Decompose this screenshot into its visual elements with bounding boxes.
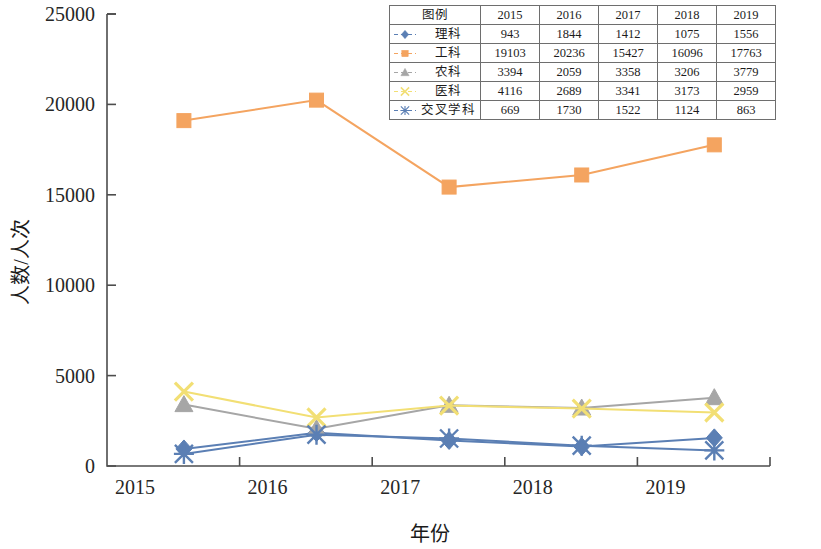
- data-point-star: [572, 436, 592, 456]
- data-point-star: [439, 428, 459, 448]
- y-tick-label-20000: 20000: [45, 93, 95, 115]
- x-tick-label-2015: 2015: [115, 476, 155, 498]
- legend-value-cell: 669: [481, 101, 540, 120]
- legend-value-cell: 3779: [717, 63, 776, 82]
- legend-series-name: 医科: [420, 83, 477, 99]
- series-4: [175, 383, 723, 427]
- legend-header-row: 图例 2015 2016 2017 2018 2019: [390, 6, 776, 25]
- legend-value-cell: 863: [717, 101, 776, 120]
- data-point-triangle: [705, 389, 723, 405]
- legend-header-year-2017: 2017: [599, 6, 658, 25]
- x-axis-title: 年份: [410, 523, 450, 545]
- data-point-square: [442, 180, 456, 194]
- series-layer: [174, 93, 724, 464]
- legend-header-year-2015: 2015: [481, 6, 540, 25]
- legend-row: 工科1910320236154271609617763: [390, 44, 776, 63]
- legend-value-cell: 16096: [658, 44, 717, 63]
- y-axis-title: 人数/人次: [10, 219, 32, 305]
- y-tick-label-15000: 15000: [45, 184, 95, 206]
- data-point-square: [177, 114, 191, 128]
- legend-value-cell: 2689: [540, 82, 599, 101]
- legend-row: 理科9431844141210751556: [390, 25, 776, 44]
- legend-value-cell: 1412: [599, 25, 658, 44]
- legend-row: 农科33942059335832063779: [390, 63, 776, 82]
- legend-header-label: 图例: [390, 6, 481, 25]
- legend-series-name: 理科: [420, 26, 477, 42]
- legend-value-cell: 3341: [599, 82, 658, 101]
- legend-series-name: 工科: [420, 45, 477, 61]
- legend-value-cell: 1730: [540, 101, 599, 120]
- legend-header-year-2018: 2018: [658, 6, 717, 25]
- x-tick-label-2017: 2017: [380, 476, 420, 498]
- legend-series-name: 交叉学科: [420, 102, 477, 118]
- data-point-star: [307, 425, 327, 445]
- legend-value-cell: 1124: [658, 101, 717, 120]
- data-point-star: [704, 440, 724, 460]
- legend-row: 交叉学科669173015221124863: [390, 101, 776, 120]
- series-5: [174, 425, 724, 464]
- line-chart: 0500010000150002000025000201520162017201…: [0, 0, 821, 549]
- x-tick-label-2016: 2016: [248, 476, 288, 498]
- legend-value-cell: 3358: [599, 63, 658, 82]
- data-point-square: [310, 93, 324, 107]
- x-tick-label-2018: 2018: [513, 476, 553, 498]
- y-tick-label-10000: 10000: [45, 274, 95, 296]
- legend-header-year-2019: 2019: [717, 6, 776, 25]
- legend-series-name: 农科: [420, 64, 477, 80]
- legend-marker-diamond-icon: [393, 29, 417, 40]
- legend-value-cell: 4116: [481, 82, 540, 101]
- legend-value-cell: 19103: [481, 44, 540, 63]
- legend-value-cell: 15427: [599, 44, 658, 63]
- data-point-star: [174, 444, 194, 464]
- legend-header-year-2016: 2016: [540, 6, 599, 25]
- legend-row: 医科41162689334131732959: [390, 82, 776, 101]
- legend-value-cell: 20236: [540, 44, 599, 63]
- legend-name-cell: 医科: [390, 82, 481, 101]
- legend-data-table: 图例 2015 2016 2017 2018 2019 理科9431844141…: [389, 5, 776, 120]
- y-tick-label-0: 0: [85, 455, 95, 477]
- legend-value-cell: 2959: [717, 82, 776, 101]
- legend-value-cell: 17763: [717, 44, 776, 63]
- legend-name-cell: 交叉学科: [390, 101, 481, 120]
- legend-table-head: 图例 2015 2016 2017 2018 2019: [390, 6, 776, 25]
- data-point-square: [575, 168, 589, 182]
- legend-value-cell: 1075: [658, 25, 717, 44]
- legend-value-cell: 1844: [540, 25, 599, 44]
- legend-name-cell: 工科: [390, 44, 481, 63]
- legend-table-body: 理科9431844141210751556工科19103202361542716…: [390, 25, 776, 120]
- legend-marker-square-icon: [393, 48, 417, 59]
- legend-value-cell: 3206: [658, 63, 717, 82]
- data-point-square: [707, 138, 721, 152]
- y-tick-label-25000: 25000: [45, 3, 95, 25]
- legend-value-cell: 1556: [717, 25, 776, 44]
- legend-value-cell: 943: [481, 25, 540, 44]
- legend-name-cell: 农科: [390, 63, 481, 82]
- legend-marker-star-icon: [393, 105, 417, 116]
- y-tick-label-5000: 5000: [55, 365, 95, 387]
- x-tick-label-2019: 2019: [645, 476, 685, 498]
- legend-marker-cross-icon: [393, 86, 417, 97]
- legend-value-cell: 1522: [599, 101, 658, 120]
- legend-name-cell: 理科: [390, 25, 481, 44]
- legend-marker-triangle-icon: [393, 67, 417, 78]
- legend-value-cell: 3394: [481, 63, 540, 82]
- legend-value-cell: 2059: [540, 63, 599, 82]
- legend-value-cell: 3173: [658, 82, 717, 101]
